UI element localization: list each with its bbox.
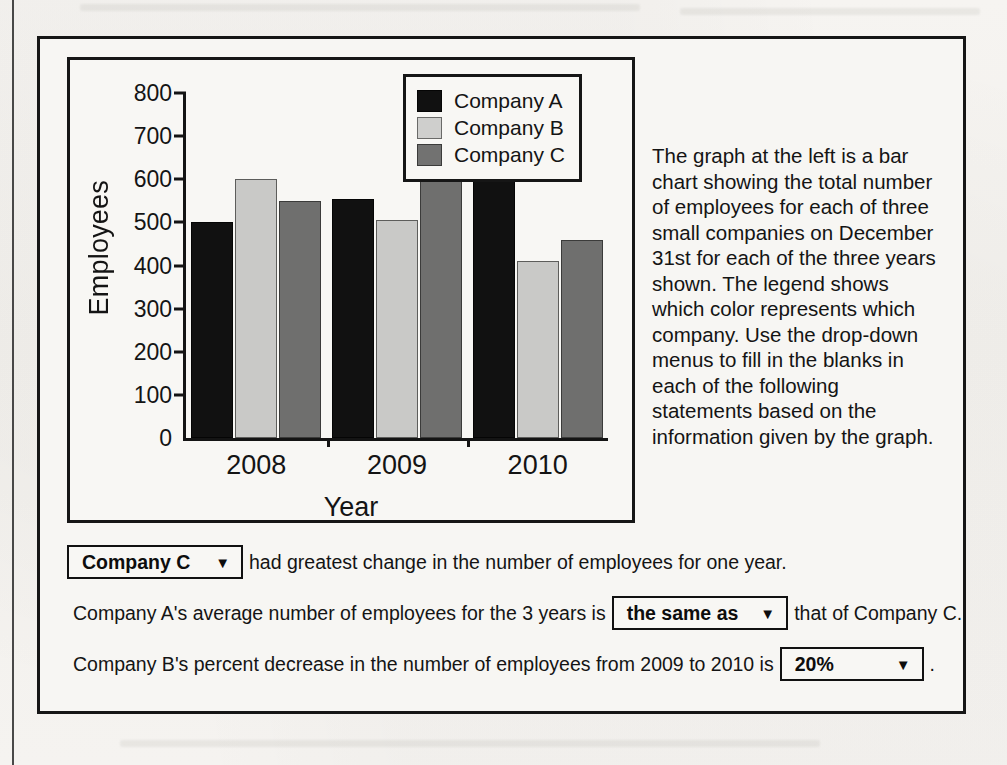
chevron-down-icon: ▼ <box>760 606 775 621</box>
bar <box>420 156 462 438</box>
chart-description-paragraph: The graph at the left is a bar chart sho… <box>652 143 944 449</box>
bar <box>517 261 559 438</box>
legend-item: Company C <box>417 143 565 167</box>
legend-item: Company B <box>417 116 565 140</box>
legend-item-label: Company B <box>454 116 564 140</box>
x-axis-tick <box>467 438 470 447</box>
chevron-down-icon: ▼ <box>896 657 911 672</box>
bar <box>332 199 374 438</box>
plot-area-wrapper: Employees 0100200300400500600700800 2008… <box>70 60 632 520</box>
x-axis-category-label: 2008 <box>226 450 286 481</box>
chevron-down-icon: ▼ <box>215 555 230 570</box>
x-axis-line <box>183 438 608 441</box>
y-axis-tick-label: 0 <box>116 425 172 452</box>
y-axis-tick-label: 100 <box>116 381 172 408</box>
y-axis-title: Employees <box>84 180 115 315</box>
x-axis-category-label: 2009 <box>367 450 427 481</box>
y-axis-tick-label: 800 <box>116 80 172 107</box>
y-axis-tick-label: 400 <box>116 252 172 279</box>
statement-1-text-after: had greatest change in the number of emp… <box>243 551 793 574</box>
y-axis-tick-label: 200 <box>116 338 172 365</box>
bar <box>473 175 515 438</box>
x-axis-category-label: 2010 <box>508 450 568 481</box>
x-axis-tick <box>327 438 330 447</box>
statement-3-text-before: Company B's percent decrease in the numb… <box>67 653 780 676</box>
y-axis-tick-labels: 0100200300400500600700800 <box>116 60 172 520</box>
dropdown-value: the same as <box>627 602 739 625</box>
page-margin-rule <box>12 0 14 765</box>
bar-group <box>186 93 327 438</box>
black-swatch-icon <box>417 90 442 112</box>
legend-item: Company A <box>417 89 565 113</box>
statement-2-text-before: Company A's average number of employees … <box>67 602 612 625</box>
y-axis-tick-label: 700 <box>116 123 172 150</box>
y-axis-tick-label: 600 <box>116 166 172 193</box>
dark-gray-swatch-icon <box>417 144 442 166</box>
statements-section: Company C ▼ had greatest change in the n… <box>67 543 941 697</box>
light-gray-swatch-icon <box>417 117 442 139</box>
statement-2-text-after: that of Company C. <box>788 602 968 625</box>
y-axis-tick-label: 300 <box>116 295 172 322</box>
statement-2: Company A's average number of employees … <box>67 596 941 630</box>
exercise-card: Employees 0100200300400500600700800 2008… <box>37 36 966 714</box>
ghost-text-line <box>120 740 820 747</box>
x-axis-title: Year <box>70 492 632 523</box>
ghost-text-line <box>680 8 980 15</box>
statement-1: Company C ▼ had greatest change in the n… <box>67 545 941 579</box>
chart-panel: Employees 0100200300400500600700800 2008… <box>67 57 635 523</box>
dropdown-value: 20% <box>795 653 834 676</box>
bar <box>561 240 603 438</box>
dropdown-percent-decrease[interactable]: 20% ▼ <box>780 647 924 681</box>
statement-3-text-after: . <box>924 653 941 676</box>
dropdown-greatest-change-company[interactable]: Company C ▼ <box>67 545 243 579</box>
dropdown-average-comparison[interactable]: the same as ▼ <box>612 596 789 630</box>
statement-3: Company B's percent decrease in the numb… <box>67 647 941 681</box>
bar <box>235 179 277 438</box>
bar <box>279 201 321 438</box>
dropdown-value: Company C <box>82 551 190 574</box>
chart-legend: Company A Company B Company C <box>403 74 582 182</box>
ghost-text-line <box>80 4 640 11</box>
bar <box>191 222 233 438</box>
legend-item-label: Company C <box>454 143 565 167</box>
legend-item-label: Company A <box>454 89 563 113</box>
y-axis-tick-label: 500 <box>116 209 172 236</box>
bar <box>376 220 418 438</box>
